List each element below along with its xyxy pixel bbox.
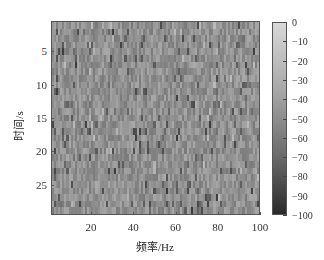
y-tick-label: 10 [36, 79, 47, 91]
y-tick-mark [51, 85, 54, 86]
x-axis-label: 频率/Hz [136, 238, 174, 254]
colorbar-tick-label: −60 [292, 132, 308, 143]
x-tick-label: 60 [170, 221, 181, 233]
x-tick-mark [218, 212, 219, 215]
x-tick-label: 20 [86, 221, 97, 233]
y-tick-label: 25 [36, 179, 47, 191]
x-tick-mark [260, 212, 261, 215]
colorbar-tick-label: −30 [292, 74, 308, 85]
colorbar-tick-label: 0 [292, 17, 297, 28]
x-tick-label: 80 [212, 221, 223, 233]
colorbar-tick-label: −70 [292, 152, 308, 163]
colorbar-tick-label: −90 [292, 190, 308, 201]
heatmap-canvas [52, 22, 259, 214]
y-tick-label: 15 [36, 112, 47, 124]
colorbar-tick-mark [283, 99, 287, 100]
colorbar-tick-mark [283, 119, 287, 120]
colorbar-tick-mark [283, 138, 287, 139]
colorbar-tick-label: −100 [292, 210, 313, 221]
x-tick-label: 40 [128, 221, 139, 233]
y-tick-mark [51, 51, 54, 52]
colorbar-tick-mark [283, 41, 287, 42]
heatmap-plot-area [51, 21, 260, 215]
colorbar-tick-label: −40 [292, 94, 308, 105]
y-tick-label: 20 [36, 145, 47, 157]
colorbar-tick-mark [283, 215, 287, 216]
x-tick-label: 100 [252, 221, 269, 233]
colorbar-tick-mark [283, 80, 287, 81]
y-tick-mark [51, 151, 54, 152]
colorbar-tick-mark [283, 196, 287, 197]
x-tick-mark [176, 212, 177, 215]
colorbar-tick-label: −10 [292, 36, 308, 47]
y-axis-label: 时间/s [10, 106, 26, 146]
x-tick-mark [133, 212, 134, 215]
colorbar-tick-mark [283, 22, 287, 23]
colorbar-tick-mark [283, 157, 287, 158]
colorbar-tick-mark [283, 176, 287, 177]
colorbar-tick-mark [283, 61, 287, 62]
colorbar-tick-label: −80 [292, 171, 308, 182]
y-tick-label: 5 [42, 45, 48, 57]
colorbar-tick-label: −50 [292, 113, 308, 124]
x-tick-mark [91, 212, 92, 215]
colorbar-tick-label: −20 [292, 55, 308, 66]
y-tick-mark [51, 185, 54, 186]
y-tick-mark [51, 118, 54, 119]
